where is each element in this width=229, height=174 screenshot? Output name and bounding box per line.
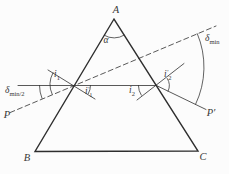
delta-min-half-label: δmin/2 (5, 85, 25, 97)
prism-diagram: A B C P P′ α i1 i′1 i2 i′2 δmin/2 δmin (0, 0, 229, 174)
i1-arc (50, 73, 53, 95)
exit-normal (137, 64, 184, 101)
ray-start-label: P (3, 109, 11, 120)
delta-min-sub: min (209, 38, 220, 45)
vertex-c-label: C (199, 151, 207, 162)
i2-sub: 2 (132, 90, 135, 97)
delta-min-label: δmin (205, 33, 220, 45)
i1-prime-sub: 1 (89, 91, 92, 98)
i1-prime-label: i′1 (85, 85, 92, 99)
i2-prime-sub: 2 (168, 74, 171, 81)
ray-end-label: P′ (206, 107, 216, 118)
vertex-b-label: B (24, 152, 31, 163)
prism-minimum-deviation-figure: A B C P P′ α i1 i′1 i2 i′2 δmin/2 δmin (0, 0, 229, 174)
i1-label: i1 (54, 69, 60, 81)
i2-arc (138, 86, 141, 96)
apex-angle-label: α (104, 35, 110, 45)
i2-prime-label: i′2 (164, 68, 171, 82)
vertex-a-label: A (112, 4, 120, 15)
i2-label: i2 (129, 85, 135, 97)
delta-min-half-sub: min/2 (9, 90, 24, 97)
delta-min-half-arc (40, 86, 43, 99)
i1-sub: 1 (57, 74, 60, 81)
delta-min-arc (196, 34, 204, 105)
